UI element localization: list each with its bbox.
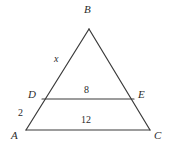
vertex-label-c: C (154, 130, 161, 141)
measure-label-db: x (54, 54, 58, 64)
triangle-figure-svg (0, 0, 174, 151)
vertex-label-a: A (11, 130, 18, 141)
side-ab-line (26, 29, 89, 130)
measure-label-ac: 12 (81, 115, 91, 125)
geometry-diagram: A B C D E x 2 8 12 (0, 0, 174, 151)
side-bc-line (89, 29, 150, 130)
vertex-label-d: D (28, 89, 36, 100)
vertex-label-b: B (84, 4, 91, 15)
measure-label-ad: 2 (18, 108, 23, 118)
vertex-label-e: E (138, 89, 145, 100)
measure-label-de: 8 (84, 85, 89, 95)
